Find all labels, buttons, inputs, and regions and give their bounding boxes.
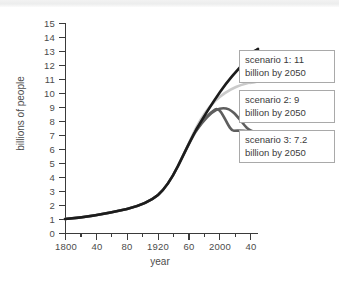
callout-scenario-2-line2: billion by 2050 [245,107,329,120]
series-line-scenario-1 [65,49,258,219]
y-tick-11: 11 [33,74,55,85]
x-tick-2040: 40 [231,241,271,252]
callout-scenario-3-line1: scenario 3: 7.2 [245,134,307,145]
y-tick-12: 12 [33,60,55,71]
y-tick-9: 9 [33,102,55,113]
y-tick-3: 3 [33,186,55,197]
callout-scenario-3[interactable]: scenario 3: 7.2 billion by 2050 [239,130,335,163]
y-tick-0: 0 [33,228,55,239]
callout-scenario-3-line2: billion by 2050 [245,147,329,160]
callout-scenario-1-line2: billion by 2050 [245,67,329,80]
y-tick-1: 1 [33,214,55,225]
y-tick-15: 15 [33,18,55,29]
x-axis-ticks [66,233,251,240]
y-tick-8: 8 [33,116,55,127]
y-tick-10: 10 [33,88,55,99]
series-line-scenario-2 [65,82,258,220]
x-axis-title: year [115,256,205,267]
y-tick-13: 13 [33,46,55,57]
y-tick-14: 14 [33,32,55,43]
callout-scenario-2-line1: scenario 2: 9 [245,94,299,105]
y-tick-2: 2 [33,200,55,211]
y-axis-title: billions of people [15,64,26,164]
callout-scenario-1[interactable]: scenario 1: 11 billion by 2050 [239,50,335,83]
population-projection-chart: 15 14 13 12 11 10 9 8 7 6 5 4 3 2 1 0 18… [0,0,339,285]
y-tick-6: 6 [33,144,55,155]
series-line-scenario-3 [65,109,258,219]
callout-scenario-1-line1: scenario 1: 11 [245,54,304,65]
y-tick-5: 5 [33,158,55,169]
y-tick-7: 7 [33,130,55,141]
y-axis-ticks [59,24,65,234]
callout-scenario-2[interactable]: scenario 2: 9 billion by 2050 [239,90,335,123]
y-tick-4: 4 [33,172,55,183]
